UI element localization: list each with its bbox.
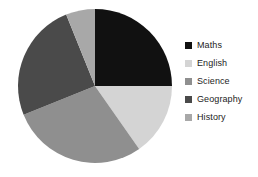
legend-item-english[interactable]: English	[185, 54, 258, 72]
pie-chart-figure: Maths English Science Geography History	[0, 0, 258, 177]
legend-swatch-maths	[185, 42, 192, 49]
legend-label-maths: Maths	[197, 40, 222, 50]
pie-slice-group	[18, 9, 172, 163]
legend-label-science: Science	[197, 76, 230, 86]
legend-label-english: English	[197, 58, 227, 68]
legend-label-geography: Geography	[197, 94, 242, 104]
pie-plot-area	[0, 0, 180, 177]
legend-swatch-science	[185, 78, 192, 85]
pie-slice-maths[interactable]	[95, 9, 172, 86]
legend-label-history: History	[197, 112, 226, 122]
pie-chart-svg	[0, 0, 180, 177]
legend-swatch-history	[185, 114, 192, 121]
chart-legend: Maths English Science Geography History	[185, 36, 258, 126]
legend-swatch-geography	[185, 96, 192, 103]
legend-item-geography[interactable]: Geography	[185, 90, 258, 108]
legend-item-history[interactable]: History	[185, 108, 258, 126]
legend-swatch-english	[185, 60, 192, 67]
legend-item-science[interactable]: Science	[185, 72, 258, 90]
legend-item-maths[interactable]: Maths	[185, 36, 258, 54]
